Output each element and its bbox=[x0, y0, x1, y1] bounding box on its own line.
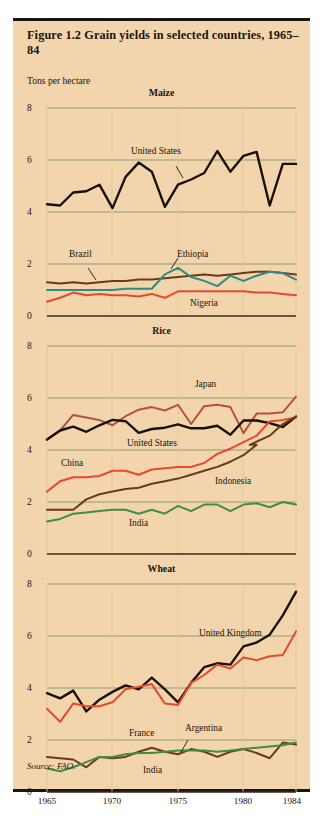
panel-maize-title: Maize bbox=[13, 87, 310, 98]
series-line-united-kingdom-wheat bbox=[47, 592, 296, 712]
wheat-gridlines bbox=[47, 584, 296, 792]
series-label-indonesia: Indonesia bbox=[215, 476, 251, 486]
figure-title: Figure 1.2 Grain yields in selected coun… bbox=[27, 28, 299, 58]
y-tick-4-maize: 4 bbox=[27, 207, 32, 217]
y-tick-6-rice: 6 bbox=[27, 393, 32, 403]
leader-brazil-maize bbox=[88, 268, 96, 280]
series-label-united-states-rice: United States bbox=[127, 438, 177, 448]
series-label-united-kingdom: United Kingdom bbox=[199, 628, 262, 638]
x-tick-1965: 1965 bbox=[38, 796, 56, 806]
y-tick-2-wheat: 2 bbox=[27, 735, 32, 745]
x-tick-1970: 1970 bbox=[103, 796, 121, 806]
series-label-brazil: Brazil bbox=[69, 249, 92, 259]
panel-rice-title: Rice bbox=[13, 325, 310, 336]
y-tick-8-rice: 8 bbox=[27, 341, 32, 351]
leader-united-states-maize bbox=[176, 166, 183, 178]
maize-plot bbox=[47, 100, 296, 316]
series-line-united-states-rice bbox=[47, 417, 296, 440]
series-label-china: China bbox=[61, 458, 83, 468]
y-tick-8-maize: 8 bbox=[27, 103, 32, 113]
x-tick-1975: 1975 bbox=[169, 796, 187, 806]
y-axis-units-label: Tons per hectare bbox=[27, 75, 90, 86]
series-line-brazil-maize bbox=[47, 272, 296, 284]
rice-gridlines bbox=[47, 346, 296, 554]
top-rule bbox=[13, 18, 310, 21]
y-tick-0-rice: 0 bbox=[27, 549, 32, 559]
y-tick-4-rice: 4 bbox=[27, 445, 32, 455]
series-line-nigeria-maize bbox=[47, 291, 296, 301]
y-tick-4-wheat: 4 bbox=[27, 683, 32, 693]
panel-rice: Rice 8 6 4 2 0 bbox=[13, 328, 310, 556]
maize-gridlines bbox=[47, 108, 296, 316]
figure-panel: Figure 1.2 Grain yields in selected coun… bbox=[13, 18, 310, 792]
series-label-argentina: Argentina bbox=[185, 723, 222, 733]
wheat-plot bbox=[47, 576, 296, 792]
series-label-united-states-maize: United States bbox=[131, 146, 181, 156]
y-tick-8-wheat: 8 bbox=[27, 579, 32, 589]
panel-wheat: Wheat 8 6 4 2 0 bbox=[13, 566, 310, 794]
series-label-india-wheat: India bbox=[143, 765, 162, 775]
series-label-ethiopia: Ethiopia bbox=[177, 249, 209, 259]
series-label-france: France bbox=[129, 728, 154, 738]
x-tick-1984: 1984 bbox=[283, 796, 301, 806]
series-label-nigeria: Nigeria bbox=[190, 298, 218, 308]
y-tick-2-rice: 2 bbox=[27, 497, 32, 507]
series-label-india-rice: India bbox=[129, 518, 148, 528]
x-tick-1980: 1980 bbox=[234, 796, 252, 806]
series-line-india-rice bbox=[47, 502, 296, 522]
panel-maize: Maize 8 6 4 2 0 bbox=[13, 90, 310, 318]
y-tick-2-maize: 2 bbox=[27, 259, 32, 269]
source-note: Source: FAO. bbox=[27, 761, 76, 771]
panel-wheat-title: Wheat bbox=[13, 563, 310, 574]
y-tick-6-wheat: 6 bbox=[27, 631, 32, 641]
y-tick-0-wheat: 0 bbox=[27, 787, 32, 797]
y-tick-0-maize: 0 bbox=[27, 311, 32, 321]
y-tick-6-maize: 6 bbox=[27, 155, 32, 165]
series-label-japan: Japan bbox=[195, 379, 216, 389]
